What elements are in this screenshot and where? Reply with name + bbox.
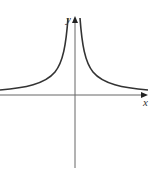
y-axis-arrow-icon [72, 16, 78, 23]
right-curve-branch [80, 18, 148, 90]
y-axis-label: y [65, 13, 71, 25]
x-axis-label: x [142, 96, 148, 108]
left-curve-branch [0, 18, 68, 90]
graph: y x [0, 0, 149, 172]
